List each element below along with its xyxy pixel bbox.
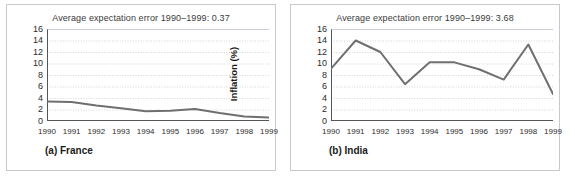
x-tick-label: 1998: [519, 127, 537, 136]
x-tick-label: 1996: [186, 127, 204, 136]
y-tick-label: 4: [322, 94, 327, 103]
y-tick-label: 4: [38, 94, 43, 103]
x-tick-label: 1994: [421, 127, 439, 136]
x-tick-label: 1997: [495, 127, 513, 136]
y-tick-label: 14: [33, 36, 43, 45]
y-tick-label: 10: [33, 59, 43, 68]
x-tick-label: 1991: [347, 127, 365, 136]
y-tick-label: 6: [322, 82, 327, 91]
x-axis-ticks-india: 1990199119921993199419951996199719981999: [331, 127, 553, 139]
y-tick-label: 2: [38, 105, 43, 114]
figure-container: Average expectation error 1990–1999: 0.3…: [0, 0, 575, 177]
chart-panel-india: Average expectation error 1990–1999: 3.6…: [290, 4, 560, 171]
x-tick-label: 1999: [544, 127, 562, 136]
y-tick-label: 0: [38, 117, 43, 126]
y-tick-label: 14: [317, 36, 327, 45]
y-tick-label: 0: [322, 117, 327, 126]
y-axis-label-india: Inflation (%): [228, 35, 240, 113]
y-tick-label: 12: [317, 48, 327, 57]
x-axis-ticks-france: 1990199119921993199419951996199719981999: [47, 127, 269, 139]
y-tick-label: 16: [317, 25, 327, 34]
x-tick-label: 1992: [87, 127, 105, 136]
panel-caption-france: (a) France: [45, 145, 93, 156]
x-tick-label: 1995: [445, 127, 463, 136]
x-tick-label: 1991: [63, 127, 81, 136]
y-axis-ticks-france: 0246810121416: [21, 29, 43, 121]
x-tick-label: 1999: [260, 127, 278, 136]
gridlines-india: [331, 30, 553, 111]
y-tick-label: 12: [33, 48, 43, 57]
x-tick-label: 1990: [38, 127, 56, 136]
x-tick-label: 1996: [470, 127, 488, 136]
y-tick-label: 10: [317, 59, 327, 68]
plot-area-india: [331, 29, 553, 121]
data-line-india: [331, 41, 553, 94]
x-tick-label: 1994: [137, 127, 155, 136]
panel-caption-india: (b) India: [329, 145, 368, 156]
y-tick-label: 8: [322, 71, 327, 80]
tick-marks-india: [331, 30, 553, 122]
x-tick-label: 1998: [235, 127, 253, 136]
y-tick-label: 16: [33, 25, 43, 34]
y-tick-label: 8: [38, 71, 43, 80]
y-axis-ticks-india: 0246810121416: [305, 29, 327, 121]
panel-title-india: Average expectation error 1990–1999: 3.6…: [291, 13, 559, 23]
x-tick-label: 1995: [161, 127, 179, 136]
x-tick-label: 1993: [396, 127, 414, 136]
x-tick-label: 1992: [371, 127, 389, 136]
x-tick-label: 1997: [211, 127, 229, 136]
panel-divider-gap: [276, 0, 290, 177]
x-tick-label: 1990: [322, 127, 340, 136]
panel-title-france: Average expectation error 1990–1999: 0.3…: [7, 13, 275, 23]
y-tick-label: 2: [322, 105, 327, 114]
y-tick-label: 6: [38, 82, 43, 91]
x-tick-label: 1993: [112, 127, 130, 136]
axis-lines-india: [331, 29, 553, 121]
line-chart-svg-india: [331, 29, 553, 121]
